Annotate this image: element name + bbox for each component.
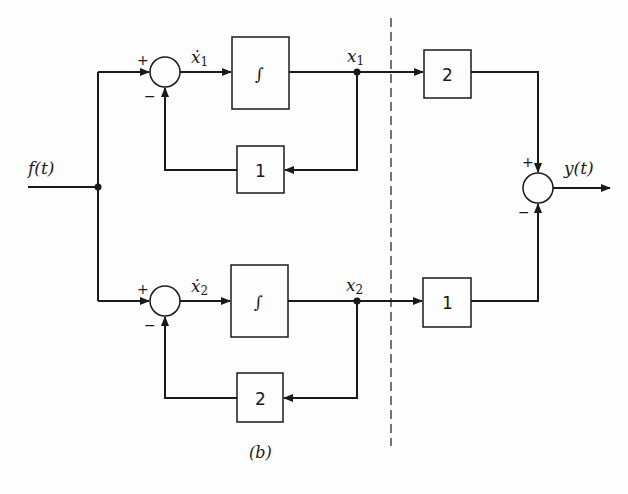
top-summing-junction	[150, 57, 180, 87]
output-summer-plus: +	[522, 154, 534, 170]
x2-label: x2	[346, 275, 363, 297]
output-summing-junction	[523, 173, 553, 203]
output-summer-minus: −	[518, 204, 530, 220]
top-output-gain-value: 2	[442, 65, 453, 85]
x2-branch-point	[354, 298, 361, 305]
top-summer-minus: −	[144, 88, 156, 104]
top-integrator-symbol: ∫	[255, 64, 264, 84]
block-diagram: f(t) y(t) + − + − + − ẋ1 ẋ2 ∫ ∫ x1 x2 2 …	[0, 0, 628, 494]
top-summer-plus: +	[137, 52, 149, 68]
figure-caption: (b)	[249, 443, 272, 462]
bottom-output-gain-value: 1	[442, 293, 453, 313]
input-branch-point	[95, 184, 102, 191]
bottom-summer-minus: −	[144, 317, 156, 333]
top-feedback-gain-value: 1	[255, 161, 266, 181]
bottom-feedback-gain-value: 2	[255, 389, 266, 409]
bottom-summing-junction	[150, 286, 180, 316]
x1-dot-label: ẋ1	[191, 47, 208, 69]
x1-label: x1	[347, 46, 364, 68]
bottom-summer-plus: +	[137, 281, 149, 297]
x1-branch-point	[354, 69, 361, 76]
bottom-integrator-symbol: ∫	[254, 292, 263, 312]
input-label: f(t)	[26, 158, 54, 178]
output-label: y(t)	[563, 158, 594, 178]
x2-dot-label: ẋ2	[191, 276, 208, 298]
